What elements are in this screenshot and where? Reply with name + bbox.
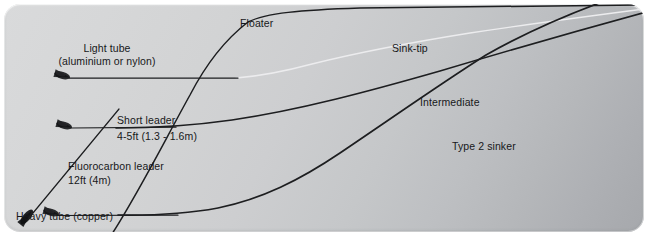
intermediate-line bbox=[116, 12, 646, 128]
label-light-tube-line2: (aluminium or nylon) bbox=[37, 55, 177, 68]
label-intermediate: Intermediate bbox=[420, 96, 480, 109]
label-heavy-tube: Heavy tube (copper) bbox=[16, 210, 113, 223]
floater-line bbox=[112, 5, 640, 234]
sink-tip-line bbox=[236, 9, 644, 78]
diagram-lines-layer bbox=[0, 0, 648, 239]
label-short-leader: Short leader bbox=[117, 114, 175, 127]
label-short-leader-length: 4-5ft (1.3 - 1.6m) bbox=[117, 130, 197, 143]
type-2-sinker-line bbox=[118, 0, 648, 215]
short-leader-marker-icon bbox=[55, 119, 73, 131]
label-floater: Floater bbox=[240, 17, 273, 30]
fly-line-setup-diagram: Light tube (aluminium or nylon) Floater … bbox=[0, 0, 648, 239]
label-light-tube: Light tube (aluminium or nylon) bbox=[37, 42, 177, 68]
label-type-2-sinker: Type 2 sinker bbox=[452, 140, 516, 153]
label-light-tube-line1: Light tube bbox=[37, 42, 177, 55]
short-leader-line bbox=[71, 127, 176, 128]
label-sink-tip: Sink-tip bbox=[392, 42, 428, 55]
label-fluorocarbon-leader: Fluorocarbon leader bbox=[68, 160, 164, 173]
light-tube-marker-icon bbox=[53, 69, 71, 81]
label-fluorocarbon-length: 12ft (4m) bbox=[68, 174, 111, 187]
